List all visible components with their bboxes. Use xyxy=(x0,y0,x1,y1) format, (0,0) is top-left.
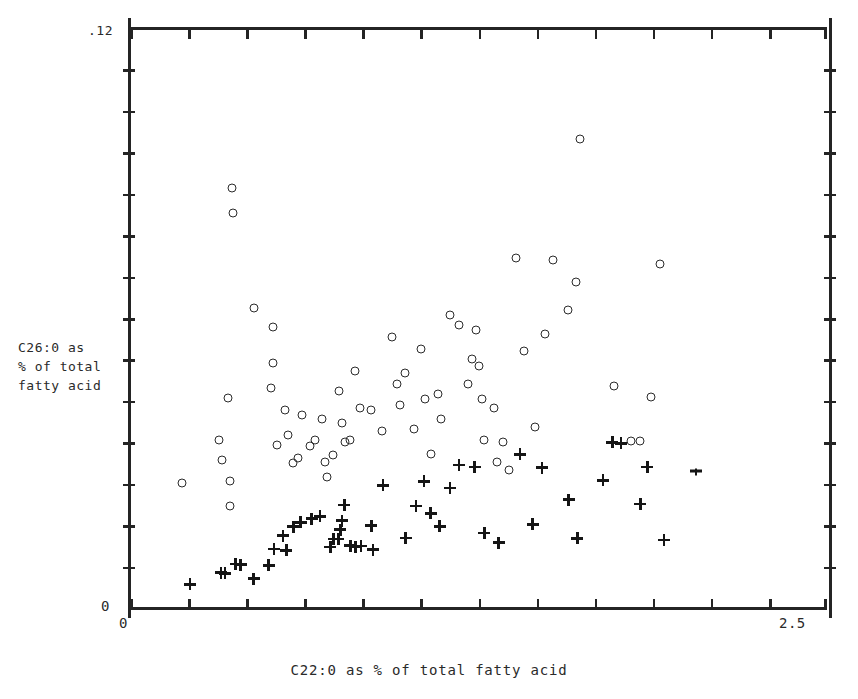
data-point-plus xyxy=(563,494,575,506)
data-point-open-circle xyxy=(395,400,404,409)
data-point-plus xyxy=(597,474,609,486)
x-axis-tick xyxy=(769,599,772,610)
data-point-plus xyxy=(280,544,292,556)
y-axis-tick xyxy=(123,235,135,238)
x-axis-tick xyxy=(188,599,191,610)
data-point-open-circle xyxy=(272,441,281,450)
data-point-plus xyxy=(425,507,437,519)
data-point-open-circle xyxy=(298,411,307,420)
data-point-open-circle xyxy=(266,384,275,393)
data-point-open-circle xyxy=(356,404,365,413)
y-axis-tick xyxy=(824,442,836,445)
data-point-open-circle xyxy=(504,466,513,475)
data-point-plus xyxy=(418,475,430,487)
data-point-open-circle xyxy=(335,386,344,395)
data-point-plus xyxy=(478,527,490,539)
data-point-open-circle xyxy=(346,435,355,444)
data-point-open-circle xyxy=(217,456,226,465)
data-point-plus xyxy=(248,573,260,585)
data-point-open-circle xyxy=(268,359,277,368)
data-point-open-circle xyxy=(310,435,319,444)
data-point-open-circle xyxy=(609,381,618,390)
data-point-open-circle xyxy=(490,403,499,412)
data-point-open-circle xyxy=(454,321,463,330)
data-point-open-circle xyxy=(564,305,573,314)
x-axis-tick xyxy=(537,28,540,39)
data-point-open-circle xyxy=(400,368,409,377)
y-axis-tick xyxy=(123,359,135,362)
y-axis-tick xyxy=(123,277,135,280)
x-axis-tick xyxy=(479,599,482,610)
x-axis-tick xyxy=(653,599,656,610)
y-axis-tick xyxy=(824,567,836,570)
data-point-plus xyxy=(444,482,456,494)
y-axis-tick xyxy=(123,484,135,487)
data-point-open-circle xyxy=(378,426,387,435)
x-axis-tick xyxy=(769,28,772,39)
data-point-open-circle xyxy=(571,278,580,287)
data-point-open-circle xyxy=(512,254,521,263)
data-point-open-circle xyxy=(480,436,489,445)
data-point-open-circle xyxy=(269,323,278,332)
y-axis-tick xyxy=(123,525,135,528)
data-point-plus xyxy=(571,532,583,544)
y-axis-tick xyxy=(123,69,135,72)
x-axis-tick xyxy=(420,28,423,39)
y-axis-tick xyxy=(824,194,836,197)
y-axis-tick xyxy=(824,401,836,404)
y-axis-tick xyxy=(123,567,135,570)
data-point-open-circle xyxy=(576,135,585,144)
x-axis-max-label: 2.5 xyxy=(779,613,806,633)
data-point-open-circle xyxy=(337,419,346,428)
y-axis-min-label: 0 xyxy=(101,596,110,616)
x-axis-tick xyxy=(246,599,249,610)
y-axis-tick xyxy=(123,152,135,155)
data-point-plus xyxy=(434,520,446,532)
data-point-open-circle xyxy=(471,325,480,334)
x-axis-tick xyxy=(362,599,365,610)
y-axis-title: C26:0 as % of total fatty acid xyxy=(18,338,101,395)
data-point-open-circle xyxy=(228,183,237,192)
x-axis-tick xyxy=(595,599,598,610)
data-point-open-circle xyxy=(225,501,234,510)
data-point-open-circle xyxy=(214,435,223,444)
y-axis-tick xyxy=(824,277,836,280)
data-point-plus xyxy=(268,543,280,555)
x-axis-tick xyxy=(362,28,365,39)
x-axis-min-label: 0 xyxy=(119,613,128,633)
y-axis-max-label: .12 xyxy=(88,22,113,41)
data-point-open-circle xyxy=(417,344,426,353)
x-axis-end-tick xyxy=(824,28,827,39)
data-point-open-circle xyxy=(445,311,454,320)
x-axis-tick xyxy=(479,28,482,39)
data-point-open-circle xyxy=(281,405,290,414)
y-axis-tick xyxy=(123,194,135,197)
x-axis-title: C22:0 as % of total fatty acid xyxy=(0,660,858,680)
data-point-open-circle xyxy=(433,389,442,398)
data-point-open-circle xyxy=(475,362,484,371)
data-point-open-circle xyxy=(177,478,186,487)
data-point-plus xyxy=(400,532,412,544)
data-point-plus xyxy=(493,537,505,549)
data-point-open-circle xyxy=(493,458,502,467)
data-point-open-circle xyxy=(647,392,656,401)
data-point-open-circle xyxy=(498,437,507,446)
plot-area xyxy=(130,28,830,608)
data-point-plus xyxy=(367,544,379,556)
data-point-open-circle xyxy=(635,437,644,446)
data-point-open-circle xyxy=(541,329,550,338)
data-point-plus xyxy=(263,559,275,571)
x-axis-end-tick xyxy=(130,599,133,610)
data-point-plus xyxy=(184,578,196,590)
x-axis-tick xyxy=(304,599,307,610)
data-point-open-circle xyxy=(225,477,234,486)
data-point-plus xyxy=(514,448,526,460)
data-point-plus xyxy=(336,515,348,527)
y-axis-tick xyxy=(824,69,836,72)
data-point-plus xyxy=(314,510,326,522)
data-point-plus xyxy=(615,437,627,449)
data-point-plus xyxy=(365,520,377,532)
x-axis-tick xyxy=(711,599,714,610)
data-point-open-circle xyxy=(426,450,435,459)
data-point-plus xyxy=(634,498,646,510)
